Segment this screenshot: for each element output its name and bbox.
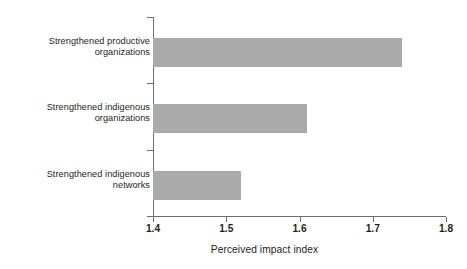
x-axis-tick [300, 217, 301, 222]
bar-1 [153, 104, 307, 133]
x-axis-tick [446, 217, 447, 222]
category-label-2: Strengthened indigenous networks [0, 169, 150, 192]
plot-area [153, 17, 446, 216]
x-axis-tick-label: 1.4 [133, 223, 173, 234]
bar-chart: Strengthened productive organizations St… [0, 0, 467, 269]
x-axis-tick-label: 1.5 [206, 223, 246, 234]
category-label-1: Strengthened indigenous organizations [0, 102, 150, 125]
bar-0 [153, 38, 402, 67]
x-axis-title: Perceived impact index [0, 244, 467, 255]
x-axis-tick-label: 1.6 [280, 223, 320, 234]
category-label-0: Strengthened productive organizations [0, 36, 150, 59]
x-axis-tick [226, 217, 227, 222]
x-axis-tick-label: 1.7 [353, 223, 393, 234]
x-axis-tick-label: 1.8 [426, 223, 466, 234]
x-axis-tick [153, 217, 154, 222]
x-axis-tick [373, 217, 374, 222]
bar-2 [153, 171, 241, 200]
